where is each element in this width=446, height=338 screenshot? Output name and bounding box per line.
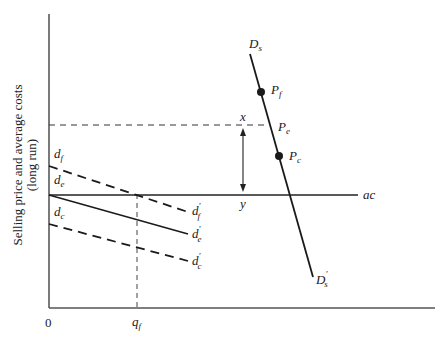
- dc-label: dc: [54, 204, 65, 221]
- pc-label: Pc: [288, 148, 301, 165]
- pc-point: [275, 152, 283, 160]
- de-demand-line: [49, 195, 188, 234]
- ds-label: Ds: [248, 36, 262, 53]
- de-prime-label: d'e: [192, 224, 202, 244]
- ac-label: ac: [363, 187, 376, 202]
- pf-label: Pf: [270, 82, 283, 99]
- dc-prime-label: d'c: [192, 251, 202, 271]
- y-axis-title-line1: Selling price and average costs: [10, 85, 25, 246]
- ds-demand-line: [250, 54, 313, 277]
- arrow-down-icon: [240, 184, 246, 192]
- df-demand-line: [49, 166, 188, 212]
- pf-point: [257, 88, 265, 96]
- y-axis-title: Selling price and average costs (long ru…: [10, 85, 39, 246]
- origin-label: 0: [45, 315, 52, 330]
- df-label: df: [54, 146, 65, 163]
- x-label: x: [239, 109, 246, 124]
- de-label: de: [54, 172, 65, 189]
- ds-prime-label: D's: [315, 269, 328, 289]
- arrow-up-icon: [240, 128, 246, 136]
- dc-demand-line: [49, 224, 188, 261]
- y-axis-title-line2: (long run): [24, 139, 39, 191]
- economics-diagram: Selling price and average costs (long ru…: [0, 0, 446, 338]
- qf-label: qf: [132, 314, 143, 331]
- pe-label: Pe: [277, 119, 290, 136]
- df-prime-label: d'f: [192, 201, 202, 221]
- y-label: y: [238, 196, 246, 211]
